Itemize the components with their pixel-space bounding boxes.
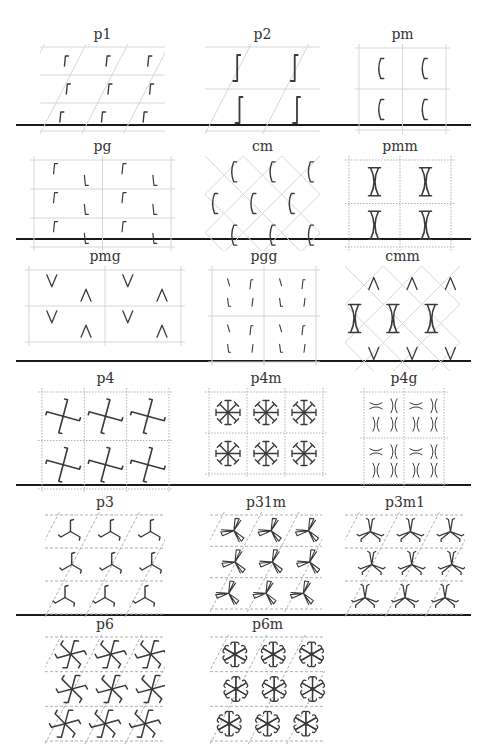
panel-p2: p2 xyxy=(205,28,320,136)
p3m1-pattern xyxy=(345,512,465,617)
p4m-pattern xyxy=(205,388,327,478)
motif-tri-hook xyxy=(53,520,162,607)
p31m-pattern xyxy=(210,512,322,612)
p6m-pattern xyxy=(210,634,325,744)
panel-title: p4g xyxy=(360,370,448,386)
panel-p3: p3 xyxy=(45,496,165,619)
motif-hook xyxy=(60,56,154,122)
panel-pmm: pmm xyxy=(345,140,455,253)
lattice-grid xyxy=(345,266,460,371)
panel-title: pmg xyxy=(25,248,185,264)
panel-p31m: p31m xyxy=(210,496,322,614)
panel-pm: pm xyxy=(355,28,450,136)
panel-pmg: pmg xyxy=(25,250,185,348)
lattice-grid xyxy=(360,388,448,488)
cm-pattern xyxy=(205,156,320,251)
p4g-pattern xyxy=(360,388,448,488)
panel-pgg: pgg xyxy=(208,250,320,368)
p3-pattern xyxy=(45,512,165,617)
panel-title: pm xyxy=(355,26,450,42)
p6-pattern xyxy=(45,634,165,744)
pg-pattern xyxy=(30,156,175,251)
lattice-grid xyxy=(45,512,165,617)
panel-title: p3m1 xyxy=(345,494,465,510)
panel-cm: cm xyxy=(205,140,320,253)
lattice-grid xyxy=(40,44,165,134)
p2-pattern xyxy=(205,44,320,134)
panel-title: p6m xyxy=(210,616,325,632)
lattice-grid xyxy=(205,156,320,251)
lattice-grid xyxy=(345,156,455,251)
lattice-grid xyxy=(355,44,450,134)
panel-cmm: cmm xyxy=(345,250,460,373)
panel-p3m1: p3m1 xyxy=(345,496,465,619)
motif-glide-hook xyxy=(54,164,157,244)
lattice-grid xyxy=(205,44,320,134)
panel-title: p1 xyxy=(40,26,165,42)
panel-title: cmm xyxy=(345,248,460,264)
lattice-grid xyxy=(38,388,173,493)
panel-title: p4m xyxy=(205,370,327,386)
panel-p4: p4 xyxy=(38,372,173,495)
pm-pattern xyxy=(355,44,450,134)
panel-title: p31m xyxy=(210,494,322,510)
motif-six-hook xyxy=(49,640,165,738)
p4-pattern xyxy=(38,388,173,493)
motif-star12 xyxy=(217,642,325,736)
panel-title: p2 xyxy=(205,26,320,42)
panel-title: pmm xyxy=(345,138,455,154)
panel-title: cm xyxy=(205,138,320,154)
lattice-grid xyxy=(345,512,465,617)
panel-title: pg xyxy=(30,138,175,154)
motif-p31m xyxy=(215,517,320,605)
panel-title: p6 xyxy=(45,616,165,632)
panel-title: pgg xyxy=(208,248,320,264)
panel-title: p3 xyxy=(45,494,165,510)
panel-title: p4 xyxy=(38,370,173,386)
panel-p6: p6 xyxy=(45,618,165,746)
cmm-pattern xyxy=(345,266,460,371)
p1-pattern xyxy=(40,44,165,134)
panel-p1: p1 xyxy=(40,28,165,136)
pmm-pattern xyxy=(345,156,455,251)
motif-p3m1 xyxy=(352,519,465,608)
motif-cmm xyxy=(349,278,456,360)
panel-pg: pg xyxy=(30,140,175,253)
panel-p6m: p6m xyxy=(210,618,325,746)
pgg-pattern xyxy=(208,266,320,366)
panel-p4g: p4g xyxy=(360,372,448,490)
pmg-pattern xyxy=(25,266,185,346)
panel-p4m: p4m xyxy=(205,372,327,480)
lattice-grid xyxy=(25,266,185,346)
